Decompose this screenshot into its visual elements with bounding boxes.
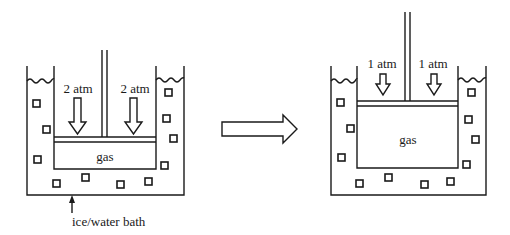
water-surface-right-b [458, 78, 486, 82]
pressure-arrow-icon [376, 74, 390, 95]
pressure-label-after-right: 1 atm [418, 56, 447, 71]
before-apparatus: 2 atm 2 atm gas ice/water bath [27, 50, 184, 229]
cylinder-right [357, 66, 458, 168]
water-surface-right-a [331, 79, 357, 83]
gas-label-before: gas [96, 149, 113, 164]
pressure-label-before-left: 2 atm [63, 81, 92, 96]
water-surface-left-b [156, 78, 184, 82]
water-surface-left-a [27, 79, 54, 83]
pressure-label-after-left: 1 atm [367, 56, 396, 71]
gas-label-after: gas [399, 132, 416, 147]
pressure-arrow-icon [427, 74, 441, 95]
after-apparatus: 1 atm 1 atm gas [331, 12, 486, 195]
pressure-arrow-icon [69, 98, 86, 134]
gas-compression-diagram: 2 atm 2 atm gas ice/water bath [0, 0, 510, 235]
pressure-arrow-icon [125, 98, 142, 134]
pressure-label-before-right: 2 atm [120, 81, 149, 96]
arrow-up-icon [69, 195, 75, 203]
right-arrow-icon [222, 115, 297, 143]
bath-label: ice/water bath [72, 214, 146, 229]
